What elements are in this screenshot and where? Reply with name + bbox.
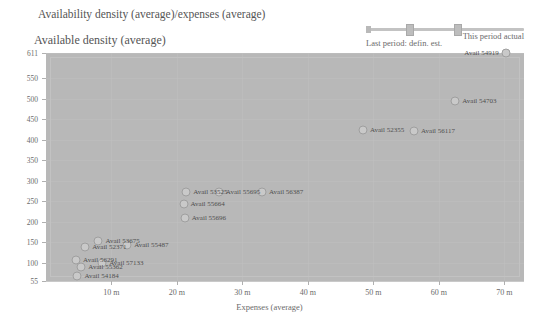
x-axis-tick-mark <box>242 281 243 285</box>
scatter-point-label: Avail 54919 <box>464 49 498 57</box>
y-axis-tick-label: 450 <box>14 115 38 124</box>
slider-handle-start[interactable] <box>406 24 414 36</box>
y-axis-tick-label: 350 <box>14 156 38 165</box>
scatter-point-label: Avail 54703 <box>462 97 496 105</box>
y-axis-tick-mark <box>42 78 46 79</box>
gridline-vertical <box>308 53 309 281</box>
chart-screen: Availability density (average)/expenses … <box>0 0 539 325</box>
y-axis-tick-mark <box>42 242 46 243</box>
scatter-point[interactable] <box>179 199 188 208</box>
x-axis-title: Expenses (average) <box>0 302 539 312</box>
scatter-point-label: Avail 55664 <box>191 200 225 208</box>
gridline-horizontal <box>46 140 524 141</box>
gridline-vertical <box>177 53 178 281</box>
slider-label-this-period: This period actual <box>463 31 524 41</box>
scatter-point[interactable] <box>501 49 510 58</box>
scatter-point-label: Avail 53525 <box>193 188 227 196</box>
gridline-horizontal <box>46 222 524 223</box>
scatter-point-label: Avail 55362 <box>88 263 122 271</box>
slider-handle-end[interactable] <box>454 24 462 36</box>
x-axis-tick-mark <box>111 281 112 285</box>
scatter-point-label: Avail 56117 <box>421 127 455 135</box>
scatter-point[interactable] <box>180 213 189 222</box>
scatter-point[interactable] <box>409 126 418 135</box>
y-axis-tick-label: 150 <box>14 238 38 247</box>
gridline-vertical <box>373 53 374 281</box>
x-axis-tick-label: 40 m <box>300 288 316 297</box>
scatter-point-label: Avail 52371 <box>92 243 126 251</box>
x-axis-tick-label: 70 m <box>496 288 512 297</box>
scatter-point-label: Avail 52355 <box>370 126 404 134</box>
gridline-horizontal <box>46 201 524 202</box>
slider-label-last-period: Last period: defin. est. <box>366 38 442 48</box>
gridline-horizontal <box>46 78 524 79</box>
y-axis-tick-label: 55 <box>14 277 38 286</box>
x-axis-tick-label: 20 m <box>169 288 185 297</box>
plot-area: Avail 54919Avail 54703Avail 56117Avail 5… <box>46 53 524 281</box>
scatter-point[interactable] <box>73 271 82 280</box>
x-axis-tick-label: 50 m <box>365 288 381 297</box>
gridline-horizontal <box>46 160 524 161</box>
y-axis-tick-label: 500 <box>14 94 38 103</box>
x-axis-tick-label: 10 m <box>103 288 119 297</box>
y-axis-tick-mark <box>42 119 46 120</box>
scatter-point[interactable] <box>358 125 367 134</box>
y-axis-tick-label: 300 <box>14 176 38 185</box>
scatter-point-label: Avail 55696 <box>192 214 226 222</box>
gridline-horizontal <box>46 119 524 120</box>
y-axis-tick-mark <box>42 160 46 161</box>
x-axis-tick-mark <box>504 281 505 285</box>
gridline-vertical <box>504 53 505 281</box>
period-range-slider[interactable]: This period actual <box>366 22 524 36</box>
chart-subtitle: Available density (average) <box>34 33 166 48</box>
scatter-point-label: Avail 55695 <box>226 188 260 196</box>
x-axis-line <box>46 281 524 282</box>
x-axis-tick-label: 30 m <box>234 288 250 297</box>
y-axis-tick-label: 611 <box>14 49 38 58</box>
y-axis-tick-mark <box>42 53 46 54</box>
y-axis-tick-mark <box>42 201 46 202</box>
y-axis-tick-mark <box>42 222 46 223</box>
y-axis-tick-label: 100 <box>14 258 38 267</box>
y-axis-tick-mark <box>42 140 46 141</box>
slider-left-cap <box>366 26 371 33</box>
scatter-point[interactable] <box>451 97 460 106</box>
scatter-point-label: Avail 56387 <box>269 188 303 196</box>
x-axis-tick-mark <box>177 281 178 285</box>
y-axis-tick-label: 400 <box>14 135 38 144</box>
y-axis-tick-label: 550 <box>14 74 38 83</box>
scatter-point[interactable] <box>81 242 90 251</box>
x-axis-tick-mark <box>373 281 374 285</box>
x-axis-tick-label: 60 m <box>431 288 447 297</box>
y-axis-tick-mark <box>42 181 46 182</box>
gridline-horizontal <box>46 181 524 182</box>
x-axis-tick-mark <box>308 281 309 285</box>
gridline-vertical <box>439 53 440 281</box>
y-axis-tick-label: 200 <box>14 217 38 226</box>
gridline-horizontal <box>46 53 524 54</box>
gridline-vertical <box>242 53 243 281</box>
x-axis-tick-mark <box>439 281 440 285</box>
scatter-point-label: Avail 54184 <box>84 272 118 280</box>
y-axis-tick-mark <box>42 99 46 100</box>
scatter-point[interactable] <box>182 188 191 197</box>
page-title: Availability density (average)/expenses … <box>38 8 265 20</box>
y-axis-tick-mark <box>42 263 46 264</box>
y-axis-tick-label: 250 <box>14 197 38 206</box>
y-axis-tick-mark <box>42 281 46 282</box>
